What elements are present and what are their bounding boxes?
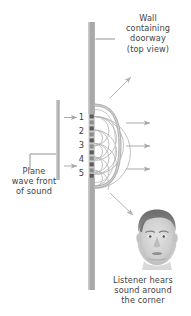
source-number-1: 1 [72,113,84,121]
source-number-5: 5 [72,169,84,177]
wall-label: Wall containing doorway (top view) [108,13,188,54]
diffraction-arrow-up [110,77,131,98]
listener-label: Listener hears sound around the corner [98,275,188,306]
source-number-4: 4 [72,155,84,163]
diffraction-arrow-down [110,193,133,215]
wall-top-highlight [89,22,91,114]
figure-canvas: Wall containing doorway (top view) Plane… [0,0,191,316]
listener-face [136,210,177,271]
doorway-gap [89,114,95,178]
plane-wave-label: Plane wave front of sound [2,166,66,197]
source-number-3: 3 [72,141,84,149]
wall-bottom-highlight [89,178,91,290]
source-number-2: 2 [72,127,84,135]
